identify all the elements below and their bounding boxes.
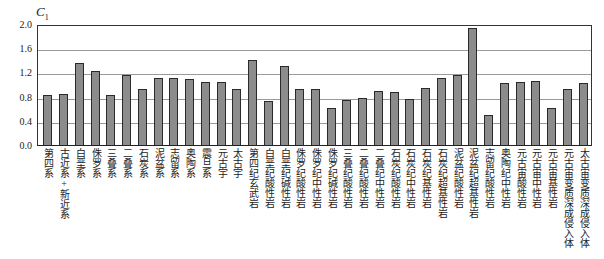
y-tick-label: 0.4	[4, 117, 32, 127]
bar	[342, 100, 351, 145]
bar-chart: C1 0.00.40.81.21.62.0 第四系古近系+新近系白垩系侏罗系三叠…	[0, 0, 604, 259]
x-category-label: 三叠系	[103, 148, 117, 178]
bar	[280, 66, 289, 145]
x-category-label: 震旦系	[197, 148, 211, 178]
x-category-label: 石炭纪超基性岩	[433, 148, 447, 218]
bar	[169, 78, 178, 145]
bar	[374, 91, 383, 145]
x-category-label: 二叠系	[119, 148, 133, 178]
y-tick-label: 2.0	[4, 20, 32, 30]
bar	[217, 82, 226, 145]
bar	[295, 89, 304, 145]
x-category-label: 奥陶纪中性岩	[496, 148, 510, 208]
x-category-label: 石炭纪中性岩	[402, 148, 416, 208]
bar	[516, 82, 525, 145]
x-category-label: 第四系	[40, 148, 54, 178]
bar	[264, 101, 273, 145]
x-category-label: 元古宙基性岩	[544, 148, 558, 208]
bar	[500, 83, 509, 145]
x-category-label: 白垩系	[71, 148, 85, 178]
gridline	[38, 50, 591, 51]
y-tick-label: 0.8	[4, 93, 32, 103]
x-category-label: 奥陶系	[182, 148, 196, 178]
x-category-label: 石炭纪酸性岩	[386, 148, 400, 208]
bar	[421, 88, 430, 145]
bar	[327, 108, 336, 146]
x-category-label: 志留系	[166, 148, 180, 178]
bar	[547, 108, 556, 146]
x-category-label: 三叠纪酸性岩	[339, 148, 353, 208]
x-category-label: 元古宙变质深成侵入体	[559, 148, 573, 248]
bar	[563, 89, 572, 145]
x-category-label: 二叠纪中性岩	[370, 148, 384, 208]
y-tick-label: 1.6	[4, 44, 32, 54]
bar	[405, 99, 414, 145]
bar	[43, 95, 52, 145]
x-category-label: 元古宙酸性岩	[512, 148, 526, 208]
bar	[531, 81, 540, 145]
bar	[106, 95, 115, 145]
x-category-label: 二叠纪酸性岩	[355, 148, 369, 208]
bar	[453, 75, 462, 145]
x-category-label: 石炭纪基性岩	[418, 148, 432, 208]
x-category-label: 石炭系	[134, 148, 148, 178]
gridline	[38, 74, 591, 75]
bar	[201, 82, 210, 145]
x-category-label: 侏罗纪酸性岩	[292, 148, 306, 208]
bar	[390, 92, 399, 145]
x-category-label: 太古宇	[229, 148, 243, 178]
bar	[437, 78, 446, 145]
x-category-label: 泥盆纪超基性岩	[465, 148, 479, 218]
bar	[248, 60, 257, 145]
x-category-label: 侏罗系	[87, 148, 101, 178]
y-tick-label: 0.0	[4, 141, 32, 151]
bar	[579, 83, 588, 145]
x-category-label: 古近系+新近系	[56, 148, 70, 219]
y-axis-label: C1	[36, 4, 49, 22]
bar	[484, 115, 493, 145]
x-category-label: 元古宙中性岩	[528, 148, 542, 208]
bar	[154, 78, 163, 145]
x-category-label: 第四纪玄武岩	[245, 148, 259, 208]
x-category-label: 志留纪酸性岩	[481, 148, 495, 208]
bar	[122, 75, 131, 145]
x-category-label: 泥盆纪酸性岩	[449, 148, 463, 208]
x-category-label: 太古宙变质深成侵入体	[575, 148, 589, 248]
x-category-label: 侏罗纪中性岩	[308, 148, 322, 208]
x-category-label: 侏罗纪碱性岩	[323, 148, 337, 208]
bar	[138, 89, 147, 145]
bar	[311, 89, 320, 145]
x-category-label: 泥盆系	[150, 148, 164, 178]
bar	[358, 98, 367, 145]
bar	[185, 79, 194, 145]
bar	[75, 63, 84, 145]
bar	[468, 28, 477, 145]
bar	[232, 89, 241, 145]
y-tick-label: 1.2	[4, 68, 32, 78]
x-category-label: 白垩纪碱性岩	[276, 148, 290, 208]
bar	[91, 71, 100, 145]
plot-area	[37, 25, 592, 146]
x-category-label: 元古宇	[213, 148, 227, 178]
x-category-label: 白垩纪酸性岩	[260, 148, 274, 208]
bar	[59, 94, 68, 145]
